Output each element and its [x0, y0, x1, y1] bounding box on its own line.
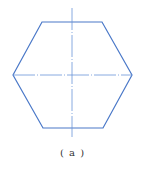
hexagon-drawing: [0, 0, 145, 171]
hexagon-figure: [0, 0, 145, 171]
figure-caption: ( a ): [0, 147, 145, 158]
